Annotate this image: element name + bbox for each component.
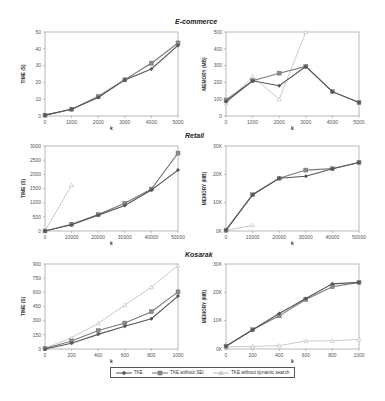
x-tick-label: 5000 bbox=[353, 119, 364, 125]
y-axis-title: TIME (S) bbox=[21, 64, 26, 84]
x-axis-title: k bbox=[291, 125, 294, 131]
series-tke-without-dynamic-search bbox=[43, 263, 180, 349]
legend-item-tke: TKE bbox=[116, 370, 143, 376]
x-tick-label: 2000 bbox=[93, 119, 104, 125]
x-tick-label: 0 bbox=[225, 234, 228, 240]
section-title-retail: Retail bbox=[185, 132, 204, 139]
legend-label-tke: TKE bbox=[134, 370, 143, 375]
series-tke-without-sei bbox=[43, 151, 180, 233]
x-tick-label: 10000 bbox=[65, 234, 79, 240]
y-axis-title: MEMORY (MB) bbox=[202, 57, 207, 91]
series-tke-without-sei bbox=[224, 280, 361, 348]
legend-label-tke-without-sei: TKE without SEI bbox=[170, 370, 203, 375]
series-tke-without-dynamic-search bbox=[224, 337, 361, 348]
x-axis-title: k bbox=[291, 240, 294, 246]
x-tick-label: 4000 bbox=[146, 119, 157, 125]
x-tick-label: 40000 bbox=[144, 234, 158, 240]
y-tick-label: 0 bbox=[219, 113, 222, 119]
legend: TKE TKE without SEI TKE without dynamic … bbox=[110, 367, 295, 378]
legend-label-tke-without-dynamic-search: TKE without dynamic search bbox=[231, 370, 289, 375]
series-tke-without-sei bbox=[43, 41, 180, 117]
x-tick-label: 50000 bbox=[171, 234, 185, 240]
series-tke bbox=[224, 160, 361, 232]
y-tick-label: 30 bbox=[35, 62, 41, 68]
x-tick-label: 3000 bbox=[119, 119, 130, 125]
x-axis-title: k bbox=[110, 125, 113, 131]
x-axis-title: k bbox=[110, 358, 113, 364]
y-tick-label: 0K bbox=[216, 346, 223, 352]
legend-item-tke-without-dynamic-search: TKE without dynamic search bbox=[213, 370, 289, 376]
square-marker-icon bbox=[152, 370, 168, 376]
x-tick-label: 40000 bbox=[325, 234, 339, 240]
x-tick-label: 30000 bbox=[118, 234, 132, 240]
y-tick-label: 450 bbox=[33, 303, 42, 309]
plot-frame bbox=[226, 146, 359, 231]
x-tick-label: 800 bbox=[328, 352, 337, 358]
y-tick-label: 20 bbox=[35, 79, 41, 85]
y-tick-label: 1000 bbox=[30, 199, 41, 205]
chart-retail-memory: 0K10K20K30K01000020000300004000050000kME… bbox=[202, 143, 366, 246]
y-axis-title: TIME (S) bbox=[21, 297, 26, 317]
y-tick-label: 0 bbox=[38, 113, 41, 119]
chart-retail-time: 0500100015002000250030000100002000030000… bbox=[21, 143, 185, 246]
y-tick-label: 0K bbox=[216, 228, 223, 234]
x-tick-label: 0 bbox=[44, 119, 47, 125]
y-tick-label: 20K bbox=[213, 289, 223, 295]
plot-frame bbox=[45, 146, 178, 231]
x-tick-label: 1000 bbox=[66, 119, 77, 125]
y-tick-label: 3000 bbox=[30, 143, 41, 149]
y-tick-label: 750 bbox=[33, 275, 42, 281]
plot-frame bbox=[45, 32, 178, 116]
diamond-marker-icon bbox=[116, 370, 132, 376]
y-tick-label: 300 bbox=[33, 317, 42, 323]
x-tick-label: 400 bbox=[94, 352, 103, 358]
y-tick-label: 500 bbox=[214, 29, 223, 35]
x-tick-label: 20000 bbox=[272, 234, 286, 240]
x-tick-label: 4000 bbox=[327, 119, 338, 125]
x-tick-label: 20000 bbox=[91, 234, 105, 240]
series-tke-without-dynamic-search bbox=[43, 42, 180, 117]
y-tick-label: 1500 bbox=[30, 185, 41, 191]
y-axis-title: MEMORY (MB) bbox=[202, 171, 207, 205]
plot-frame bbox=[226, 32, 359, 116]
y-tick-label: 150 bbox=[33, 332, 42, 338]
x-tick-label: 1000 bbox=[172, 352, 183, 358]
x-tick-label: 0 bbox=[225, 119, 228, 125]
x-tick-label: 50000 bbox=[352, 234, 366, 240]
charts-canvas: 01020304050010002000300040005000kTIME (S… bbox=[0, 0, 385, 401]
x-tick-label: 1000 bbox=[247, 119, 258, 125]
y-axis-title: MEMORY (MB) bbox=[202, 289, 207, 323]
y-tick-label: 400 bbox=[214, 46, 223, 52]
y-tick-label: 100 bbox=[214, 96, 223, 102]
y-tick-label: 40 bbox=[35, 46, 41, 52]
x-tick-label: 5000 bbox=[172, 119, 183, 125]
series-tke bbox=[43, 294, 180, 351]
y-tick-label: 50 bbox=[35, 29, 41, 35]
y-tick-label: 0 bbox=[38, 346, 41, 352]
x-tick-label: 0 bbox=[44, 234, 47, 240]
y-tick-label: 10K bbox=[213, 199, 223, 205]
x-tick-label: 2000 bbox=[274, 119, 285, 125]
x-axis-title: k bbox=[110, 240, 113, 246]
chart-ecommerce-memory: 0100200300400500010002000300040005000kME… bbox=[202, 29, 365, 131]
x-tick-label: 0 bbox=[225, 352, 228, 358]
triangle-marker-icon bbox=[213, 370, 229, 376]
y-tick-label: 200 bbox=[214, 79, 223, 85]
legend-item-tke-without-sei: TKE without SEI bbox=[152, 370, 203, 376]
section-title-kosarak: Kosarak bbox=[185, 251, 213, 258]
x-tick-label: 800 bbox=[147, 352, 156, 358]
x-tick-label: 200 bbox=[67, 352, 76, 358]
y-tick-label: 2500 bbox=[30, 157, 41, 163]
series-tke bbox=[224, 280, 361, 348]
chart-ecommerce-time: 01020304050010002000300040005000kTIME (S… bbox=[21, 29, 184, 131]
figure: 01020304050010002000300040005000kTIME (S… bbox=[0, 0, 385, 401]
y-tick-label: 300 bbox=[214, 62, 223, 68]
y-axis-title: TIME (S) bbox=[21, 179, 26, 199]
x-tick-label: 1000 bbox=[353, 352, 364, 358]
y-tick-label: 0 bbox=[38, 228, 41, 234]
y-tick-label: 600 bbox=[33, 289, 42, 295]
x-tick-label: 3000 bbox=[300, 119, 311, 125]
y-tick-label: 10K bbox=[213, 317, 223, 323]
section-title-ecommerce: E-commerce bbox=[175, 18, 217, 25]
x-tick-label: 200 bbox=[248, 352, 257, 358]
